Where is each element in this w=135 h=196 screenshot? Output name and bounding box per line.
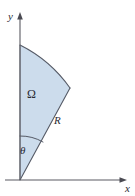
omega-region-label: Ω (27, 88, 36, 100)
figure-container: y x Ω R θ (0, 0, 135, 196)
x-axis-label: x (125, 183, 130, 194)
y-axis-arrowhead-icon (17, 12, 23, 20)
omega-region-shape (20, 45, 70, 180)
angle-label: θ (20, 145, 25, 156)
y-axis-label: y (8, 11, 13, 22)
sector-diagram-svg (0, 0, 135, 196)
radius-label: R (54, 115, 61, 126)
